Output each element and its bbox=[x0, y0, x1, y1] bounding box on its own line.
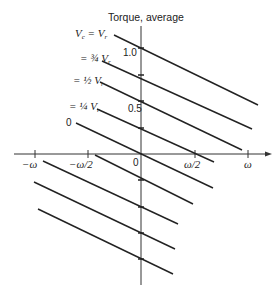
curve-label-full: Vc = Vr bbox=[75, 27, 108, 41]
line-neg-one bbox=[38, 209, 173, 274]
curve-label-zero: 0 bbox=[66, 117, 72, 128]
curve-label-quarter: = ¼ Vr bbox=[69, 100, 100, 114]
torque-speed-diagram: Torque, average 1.0 0.5 −ω −ω/2 0 ω/2 ω … bbox=[0, 0, 278, 294]
y-tick-label-1: 1.0 bbox=[123, 47, 137, 58]
curve-label-three-quarter: = ¾ Vr bbox=[80, 52, 111, 66]
y-tick-label-05: 0.5 bbox=[128, 103, 142, 114]
x-tick-label-zero: 0 bbox=[133, 157, 139, 168]
diagram-svg: Torque, average 1.0 0.5 −ω −ω/2 0 ω/2 ω … bbox=[0, 0, 278, 294]
x-tick-label-half-omega: ω/2 bbox=[184, 158, 201, 170]
line-neg-three-quarter bbox=[34, 182, 175, 249]
axis-title: Torque, average bbox=[108, 11, 184, 23]
x-tick-label-omega: ω bbox=[244, 158, 252, 170]
curve-label-half: = ½ Vr bbox=[73, 74, 104, 88]
line-vc-eq-vr bbox=[114, 35, 258, 105]
x-tick-label-neg-omega: −ω bbox=[22, 158, 37, 170]
x-axis-arrow-icon bbox=[265, 152, 272, 157]
x-tick-label-neg-half-omega: −ω/2 bbox=[69, 158, 93, 170]
line-neg-half bbox=[43, 161, 178, 224]
